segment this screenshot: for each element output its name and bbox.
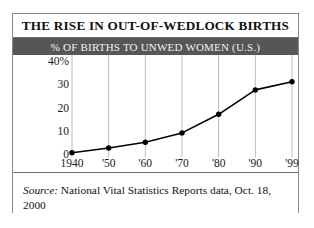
chart-x-tick-label: '50	[102, 158, 116, 170]
chart-source: Source: National Vital Statistics Report…	[23, 183, 288, 212]
chart-y-tick-label: 30	[58, 79, 70, 91]
chart-x-tick-label: '60	[139, 158, 153, 170]
chart-figure: THE RISE IN OUT-OF-WEDLOCK BIRTHS % OF B…	[12, 13, 299, 213]
chart-data-point	[106, 145, 111, 150]
chart-x-tick-label: '80	[212, 158, 226, 170]
chart-gridlines	[72, 55, 292, 157]
chart-data-point	[143, 140, 148, 145]
chart-y-tick-label: 20	[58, 103, 70, 115]
chart-y-tick-label: 10	[58, 126, 70, 138]
chart-source-band: Source: National Vital Statistics Report…	[13, 172, 298, 213]
chart-x-tick-label: '70	[175, 158, 189, 170]
chart-y-tick-label: 40%	[48, 56, 69, 68]
chart-subtitle-band: % OF BIRTHS TO UNWED WOMEN (U.S.)	[13, 38, 298, 55]
chart-data-point	[216, 112, 221, 117]
chart-data-point	[253, 87, 258, 92]
chart-plot-area: 40%3020100 1940'50'60'70'80'90'99	[13, 55, 298, 172]
chart-x-tick-label: '90	[249, 158, 263, 170]
source-detail: National Vital Statistics Reports data, …	[23, 184, 271, 211]
source-label: Source:	[23, 184, 58, 196]
chart-x-axis-labels: 1940'50'60'70'80'90'99	[13, 156, 298, 172]
chart-x-tick-label: '99	[285, 158, 299, 170]
chart-y-axis-labels: 40%3020100	[13, 55, 69, 172]
chart-subtitle: % OF BIRTHS TO UNWED WOMEN (U.S.)	[51, 41, 260, 53]
chart-title-band: THE RISE IN OUT-OF-WEDLOCK BIRTHS	[13, 14, 298, 38]
chart-data-point	[179, 130, 184, 135]
chart-title: THE RISE IN OUT-OF-WEDLOCK BIRTHS	[22, 18, 289, 34]
chart-data-point	[69, 150, 74, 155]
chart-x-tick-label: 1940	[61, 158, 84, 170]
chart-data-point	[289, 79, 294, 84]
